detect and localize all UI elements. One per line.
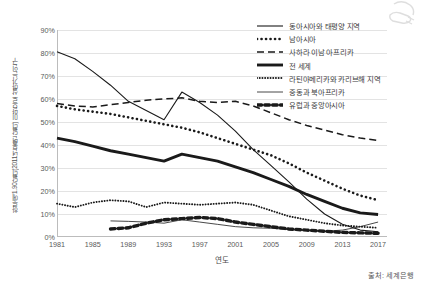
y-axis-tick-labels: 90% 80% 70% 60% 50% 40% 30% 20% 10% 0% (22, 24, 55, 244)
legend-line-swatch (257, 20, 283, 32)
legend-line-swatch (257, 46, 283, 58)
source-note: 출처: 세계은행 (368, 270, 414, 280)
y-tick-label: 70% (22, 72, 55, 81)
legend-line-swatch (257, 86, 283, 98)
y-tick-label: 90% (22, 26, 55, 35)
legend-label: 동아시아와 태평양 지역 (289, 20, 360, 31)
x-tick-label: 1981 (49, 240, 65, 249)
legend-item[interactable]: 전 세계 (257, 59, 420, 72)
legend-label: 전 세계 (289, 60, 311, 71)
x-tick-label: 1993 (156, 240, 172, 249)
chart-legend: 동아시아와 태평양 지역남아시아사하라 이남 아프리카전 세계라틴아메리카와 카… (257, 19, 420, 111)
y-tick-label: 20% (22, 187, 55, 196)
legend-item[interactable]: 사하라 이남 아프리카 (257, 45, 420, 58)
legend-item[interactable]: 라틴아메리카와 카리브해 지역 (257, 72, 420, 85)
legend-label: 유럽과 중앙아시아 (289, 99, 345, 110)
x-tick-label: 1997 (192, 240, 208, 249)
y-tick-label: 30% (22, 164, 55, 173)
y-tick-label: 40% (22, 141, 55, 150)
legend-line-swatch (257, 59, 283, 71)
legend-item[interactable]: 남아시아 (257, 32, 420, 45)
y-tick-label: 10% (22, 210, 55, 219)
chart-page: 하루에 1.90달러(2011년 불변 달러) 미만으로 살아가는 인구 90%… (0, 0, 422, 296)
legend-line-swatch (257, 33, 283, 45)
y-tick-label: 50% (22, 118, 55, 127)
x-tick-label: 2001 (227, 240, 243, 249)
legend-item[interactable]: 중동과 북아프리카 (257, 85, 420, 98)
x-tick-label: 2005 (263, 240, 279, 249)
legend-label: 사하라 이남 아프리카 (289, 46, 353, 57)
legend-label: 라틴아메리카와 카리브해 지역 (289, 73, 380, 84)
x-tick-label: 1989 (120, 240, 136, 249)
series-line (57, 106, 378, 200)
x-axis-tick-labels: 1981198519891993199720012005200920132017 (57, 240, 387, 254)
legend-line-swatch (257, 72, 283, 84)
y-tick-label: 60% (22, 95, 55, 104)
x-tick-label: 2013 (334, 240, 350, 249)
legend-item[interactable]: 동아시아와 태평양 지역 (257, 19, 420, 32)
legend-item[interactable]: 유럽과 중앙아시아 (257, 98, 420, 111)
legend-label: 남아시아 (289, 33, 316, 44)
x-tick-label: 2017 (370, 240, 386, 249)
y-axis-title: 하루에 1.90달러(2011년 불변 달러) 미만으로 살아가는 인구 (8, 32, 22, 240)
x-tick-label: 1985 (85, 240, 101, 249)
legend-label: 중동과 북아프리카 (289, 86, 345, 97)
x-axis-title: 연도 (57, 254, 387, 265)
x-tick-label: 2009 (299, 240, 315, 249)
series-line (57, 138, 378, 214)
legend-line-swatch (257, 99, 283, 111)
y-tick-label: 80% (22, 49, 55, 58)
